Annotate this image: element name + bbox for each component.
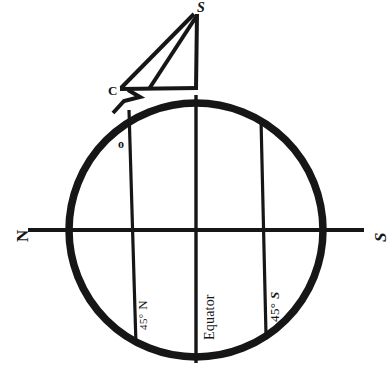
- meridian-45-south: [261, 119, 266, 335]
- meridian-label-45-south-degrees: 45: [267, 308, 282, 322]
- meridian-label-45-north: 45° N: [136, 300, 149, 330]
- degree-sign-icon: °: [137, 313, 149, 318]
- degree-sign-icon: °: [267, 303, 282, 309]
- triangle-apex-label: S: [197, 1, 205, 15]
- meridian-label-45-north-degrees: 45: [137, 318, 149, 330]
- axis-label-south: S: [372, 233, 389, 242]
- meridian-label-45-north-hemisphere: N: [135, 300, 150, 310]
- triangle-vertical-leg: [196, 14, 197, 89]
- meridian-label-45-south-hemisphere: S: [267, 291, 282, 299]
- meridian-label-45-south: 45° S: [268, 291, 281, 322]
- axis-label-north: N: [14, 230, 31, 242]
- surface-point-label: o: [118, 138, 124, 150]
- meridian-label-equator: Equator: [203, 294, 217, 340]
- diagram-canvas: N S S C o 45° N Equator 45° S: [0, 0, 389, 372]
- triangle-base-left-label: C: [108, 84, 117, 97]
- triangle-base: [120, 88, 198, 89]
- diagram-vector-layer: [0, 0, 389, 372]
